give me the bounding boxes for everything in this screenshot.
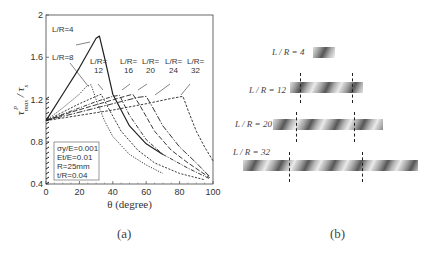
x-tick-label: 60 bbox=[141, 187, 151, 197]
panel-b-caption: (b) bbox=[330, 226, 345, 242]
spike-mark bbox=[46, 142, 49, 144]
tube-lr4 bbox=[313, 47, 335, 58]
tube-lr20 bbox=[273, 119, 383, 130]
x-tick-label: 100 bbox=[205, 187, 220, 197]
panel-b-label-lr32: L / R = 32 bbox=[233, 147, 270, 157]
x-axis-label: θ (degree) bbox=[107, 198, 152, 211]
y-tick-label: 1.6 bbox=[30, 52, 43, 62]
panel-a-caption: (a) bbox=[117, 226, 131, 242]
panel-b-label-lr12: L / R = 12 bbox=[249, 85, 286, 95]
curve-label: 16 bbox=[124, 66, 133, 75]
spike-mark bbox=[46, 172, 49, 174]
dash-line bbox=[300, 73, 301, 103]
curve-label: 20 bbox=[146, 66, 155, 75]
label-arrow bbox=[155, 84, 170, 95]
curve-label: 12 bbox=[94, 66, 103, 75]
y-tick-label: 2 bbox=[38, 10, 43, 20]
spike-mark bbox=[46, 102, 49, 104]
y-tick-label: 1.2 bbox=[30, 95, 43, 105]
y-tick-label: 0.4 bbox=[30, 179, 43, 189]
spike-mark bbox=[46, 177, 49, 179]
x-tick-label: 20 bbox=[74, 187, 84, 197]
curve-label: L/R=4 bbox=[52, 25, 74, 34]
label-arrow bbox=[138, 84, 147, 90]
dash-line bbox=[362, 152, 363, 182]
curve-label: L/R= bbox=[187, 57, 204, 66]
y-tick-label: 0.8 bbox=[30, 137, 43, 147]
curve-label: L/R= bbox=[90, 57, 107, 66]
label-arrow bbox=[76, 42, 90, 45]
curve-label: L/R= bbox=[120, 57, 137, 66]
curve-label: L/R=8 bbox=[52, 53, 74, 62]
spike-mark bbox=[46, 112, 49, 114]
dash-line bbox=[296, 112, 297, 142]
label-arrow bbox=[98, 84, 103, 90]
curve-label: L/R= bbox=[142, 57, 159, 66]
parameter-text: t/R=0.04 bbox=[57, 171, 88, 180]
curve-label: 32 bbox=[191, 66, 200, 75]
parameter-text: Et/E=0.01 bbox=[57, 153, 93, 162]
x-tick-label: 80 bbox=[175, 187, 185, 197]
parameter-text: R=25mm bbox=[57, 162, 90, 171]
spike-mark bbox=[46, 152, 49, 154]
spike-mark bbox=[46, 167, 49, 169]
dash-line bbox=[289, 152, 290, 182]
panel-b-label-lr20: L / R = 20 bbox=[235, 119, 272, 129]
x-tick-label: 40 bbox=[108, 187, 118, 197]
panel-b-label-lr4: L / R = 4 bbox=[272, 47, 304, 57]
curve-label: 24 bbox=[169, 66, 178, 75]
dash-line bbox=[354, 112, 355, 142]
label-arrow bbox=[122, 84, 130, 90]
spike-mark bbox=[46, 162, 49, 164]
spike-mark bbox=[46, 122, 49, 124]
spike-mark bbox=[46, 127, 49, 129]
spike-mark bbox=[46, 132, 49, 134]
spike-mark bbox=[46, 107, 49, 109]
label-arrow bbox=[181, 84, 190, 95]
x-tick-label: 0 bbox=[43, 187, 48, 197]
y-axis-label: τmaxp / τs bbox=[11, 85, 30, 116]
parameter-text: σy/E=0.001 bbox=[57, 144, 99, 153]
tube-lr32 bbox=[243, 160, 418, 171]
spike-mark bbox=[46, 147, 49, 149]
spike-mark bbox=[46, 97, 49, 99]
dash-line bbox=[352, 73, 353, 103]
curve-label: L/R= bbox=[165, 57, 182, 66]
spike-mark bbox=[46, 157, 49, 159]
spike-mark bbox=[46, 137, 49, 139]
label-arrow bbox=[70, 63, 88, 86]
